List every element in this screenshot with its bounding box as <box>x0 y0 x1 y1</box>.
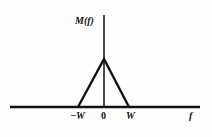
y-axis-label-mf: M(f) <box>75 16 94 26</box>
figure-canvas: M(f) −W 0 W f <box>0 0 212 137</box>
x-tick-label-positive-w: W <box>126 111 135 121</box>
x-axis-label-f: f <box>189 111 192 121</box>
x-tick-label-negative-w: −W <box>70 111 85 121</box>
x-tick-label-origin: 0 <box>101 111 106 121</box>
spectrum-plot <box>0 0 212 137</box>
